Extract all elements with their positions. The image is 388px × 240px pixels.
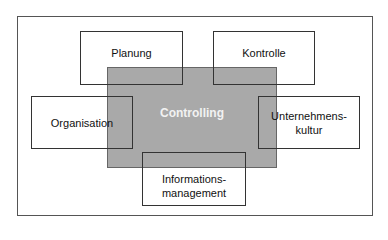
- kontrolle-box: Kontrolle: [213, 31, 315, 85]
- organisation-box: Organisation: [31, 96, 133, 149]
- unternehmenskultur-box: Unternehmens- kultur: [258, 96, 360, 149]
- informationsmanagement-box: Informations- management: [142, 152, 246, 206]
- informationsmanagement-label: Informations- management: [162, 172, 226, 200]
- controlling-label: Controlling: [108, 106, 276, 120]
- kontrolle-label: Kontrolle: [242, 46, 285, 60]
- unternehmenskultur-label: Unternehmens- kultur: [271, 109, 347, 137]
- organisation-label: Organisation: [51, 116, 113, 130]
- planung-box: Planung: [80, 31, 183, 85]
- planung-label: Planung: [111, 46, 151, 60]
